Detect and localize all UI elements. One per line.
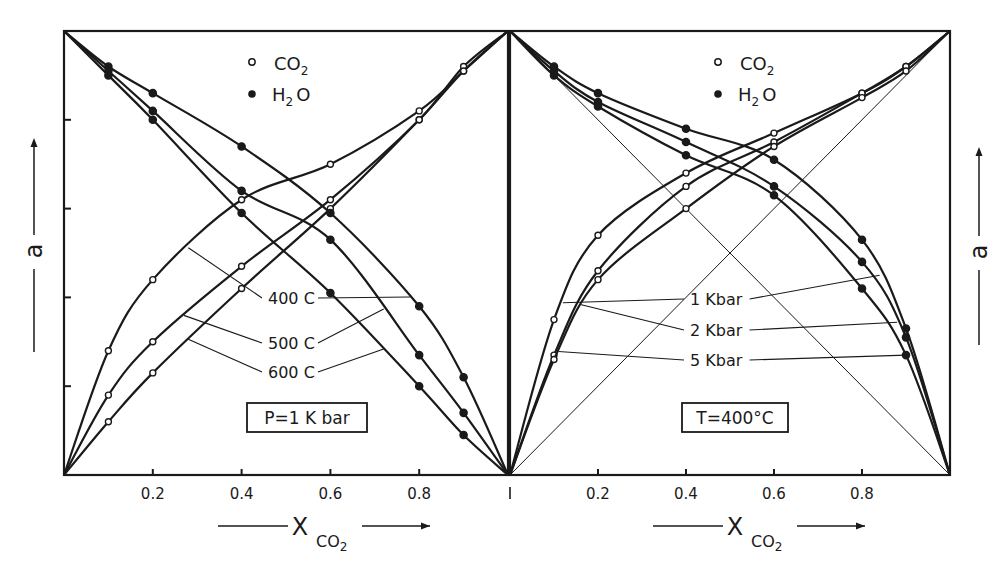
co2-data-point [239, 197, 245, 203]
co2-data-point [683, 170, 689, 176]
arrow-right-icon [856, 523, 865, 530]
h2o-data-point [460, 374, 467, 381]
legend: CO2H2O [714, 53, 776, 109]
h2o-data-point [550, 72, 557, 79]
y-axis-title-right: a [965, 147, 993, 345]
co2-data-point [416, 108, 422, 114]
legend-h2o: H2O [272, 84, 310, 109]
filled-circle-icon [714, 90, 722, 98]
h2o-data-point [902, 334, 909, 341]
co2-data-point [903, 68, 909, 74]
h2o-data-point [238, 143, 245, 150]
leader-line [318, 349, 384, 372]
h2o-data-point [149, 107, 156, 114]
h2o-data-point [416, 352, 423, 359]
co2-data-point [683, 206, 689, 212]
x-label-subscript: CO2 [316, 532, 347, 554]
leader-line [318, 297, 410, 298]
co2-data-point [327, 161, 333, 167]
co2-data-point [150, 277, 156, 283]
h2o-data-point [682, 125, 689, 132]
curve-label: 400 C [268, 289, 315, 308]
right-panel: 0.20.40.60.81 Kbar2 Kbar5 KbarT=400°CCO2… [510, 31, 950, 554]
co2-data-point [595, 277, 601, 283]
x-label-X: X [292, 513, 308, 541]
co2-data-point [327, 197, 333, 203]
x-tick-label: 0.8 [407, 485, 431, 503]
curve-label: 500 C [268, 334, 315, 353]
co2-data-point [239, 286, 245, 292]
condition-label: T=400°C [695, 408, 773, 428]
open-circle-icon [715, 59, 721, 65]
co2-data-point [771, 130, 777, 136]
curve-label: 2 Kbar [690, 321, 743, 340]
legend-h2o: H2O [738, 84, 776, 109]
h2o-data-point [327, 289, 334, 296]
h2o-data-point [770, 192, 777, 199]
h2o-data-point [105, 72, 112, 79]
h2o-data-point [594, 90, 601, 97]
y-axis-title-left: a [20, 138, 48, 352]
x-label-subscript: CO2 [751, 532, 782, 554]
leader-line [184, 315, 262, 343]
co2-data-point [239, 263, 245, 269]
h2o-data-point [460, 409, 467, 416]
x-axis-title: XCO2 [653, 513, 865, 554]
y-label-a: a [20, 244, 48, 259]
legend-co2: CO2 [274, 53, 308, 78]
co2-data-point [105, 348, 111, 354]
open-circle-icon [249, 59, 255, 65]
leader-line [558, 352, 684, 360]
legend-co2: CO2 [740, 53, 774, 78]
h2o-data-point [416, 303, 423, 310]
h2o-data-point [770, 156, 777, 163]
h2o-data-point [858, 236, 865, 243]
filled-circle-icon [248, 90, 256, 98]
h2o-data-point [594, 103, 601, 110]
co2-data-point [105, 419, 111, 425]
leader-line [750, 322, 898, 330]
curve-label: 5 Kbar [690, 351, 743, 370]
h2o-data-point [682, 138, 689, 145]
condition-label: P=1 K bar [264, 408, 349, 428]
curve-label: 600 C [268, 363, 315, 382]
arrow-right-icon [421, 523, 430, 530]
co2-data-point [771, 143, 777, 149]
x-tick-label: 0.4 [230, 485, 254, 503]
co2-data-point [859, 95, 865, 101]
co2-data-point [461, 68, 467, 74]
leader-line [580, 305, 684, 330]
h2o-data-point [770, 183, 777, 190]
h2o-data-point [460, 431, 467, 438]
h2o-data-point [149, 90, 156, 97]
co2-data-point [551, 357, 557, 363]
co2-data-point [683, 183, 689, 189]
h2o-data-point [238, 187, 245, 194]
h2o-data-point [238, 209, 245, 216]
curve-label: 1 Kbar [690, 290, 743, 309]
co2-data-point [150, 370, 156, 376]
h2o-data-point [858, 258, 865, 265]
x-label-X: X [727, 513, 743, 541]
legend: CO2H2O [248, 53, 310, 109]
h2o-data-point [858, 285, 865, 292]
x-tick-label: 0.8 [850, 485, 874, 503]
x-tick-label: 0.2 [586, 485, 610, 503]
co2-data-point [105, 392, 111, 398]
h2o-data-point [327, 236, 334, 243]
x-tick-label: 0.6 [762, 485, 786, 503]
arrow-up-icon [31, 138, 38, 147]
leader-line [188, 339, 262, 372]
co2-data-point [551, 317, 557, 323]
co2-data-point [416, 117, 422, 123]
h2o-data-point [416, 383, 423, 390]
co2-data-point [150, 339, 156, 345]
co2-data-point [595, 268, 601, 274]
arrow-up-icon [976, 147, 983, 156]
left-panel: 0.20.40.60.8400 C500 C600 CP=1 K barCO2H… [64, 31, 508, 554]
activity-composition-figure: 0.20.40.60.8400 C500 C600 CP=1 K barCO2H… [0, 0, 1008, 571]
y-label-a: a [965, 245, 993, 260]
x-axis-title: XCO2 [218, 513, 430, 554]
leader-line [188, 248, 262, 298]
h2o-data-point [682, 152, 689, 159]
